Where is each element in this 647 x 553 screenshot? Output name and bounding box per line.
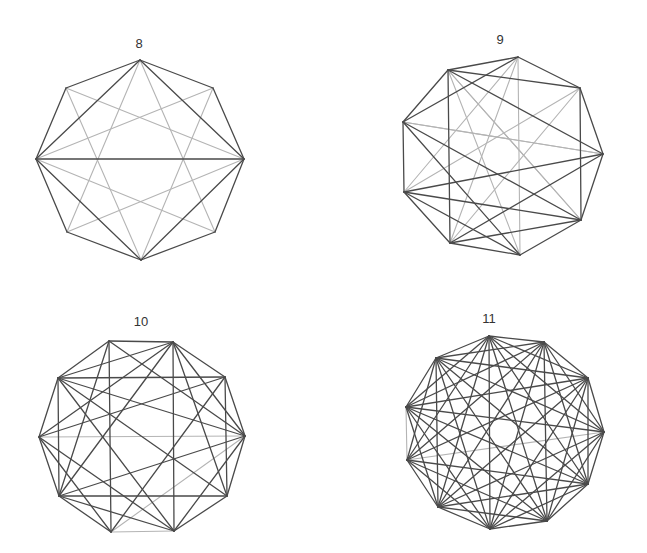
dark-edge [173, 342, 227, 496]
light-edge [518, 57, 520, 255]
figure-9-label: 9 [496, 32, 503, 47]
dark-edge [141, 232, 215, 260]
figure-10-label: 10 [134, 314, 148, 329]
dark-edge [173, 342, 245, 436]
dark-edge [36, 159, 141, 260]
light-edge [141, 88, 213, 260]
dark-edge [173, 342, 174, 531]
light-edge [36, 88, 213, 159]
dark-edge [109, 341, 173, 342]
dark-edge [403, 70, 448, 122]
dark-edge [215, 159, 244, 232]
dark-edge [141, 159, 244, 260]
figure-8: 8 [36, 36, 244, 260]
dark-edge [39, 342, 173, 437]
dark-edge [39, 377, 225, 437]
dark-edge [403, 57, 518, 122]
dark-edge [36, 60, 140, 159]
figure-11-label: 11 [482, 311, 496, 326]
dark-edge [436, 358, 588, 484]
dark-edge [174, 436, 245, 531]
dark-edge [58, 378, 245, 436]
dark-edge [490, 342, 544, 529]
figure-11: 11 [406, 311, 604, 529]
dark-edge [588, 432, 604, 484]
figure-10: 10 [39, 314, 245, 532]
light-edge [448, 70, 581, 220]
dark-edge [227, 436, 245, 496]
dark-edge [140, 60, 244, 159]
figure-10-edges [39, 341, 245, 532]
figure-8-label: 8 [135, 36, 142, 51]
figure-9-edges [403, 57, 603, 255]
dark-edge [404, 192, 450, 243]
dark-edge [66, 60, 140, 88]
dark-edge [59, 496, 174, 531]
dark-edge [58, 378, 59, 496]
figure-9: 9 [403, 32, 603, 255]
dark-edge [225, 377, 245, 436]
dark-edge [39, 437, 111, 532]
light-edge [111, 531, 174, 532]
dark-edge [67, 232, 141, 260]
dark-edge [581, 154, 603, 220]
dark-edge [407, 342, 544, 460]
light-edge [450, 57, 518, 243]
polygon-diagrams: 8 9 10 11 [0, 0, 647, 553]
dark-edge [588, 378, 604, 432]
dark-edge [174, 496, 227, 531]
dark-edge [39, 378, 58, 437]
dark-edge [59, 496, 111, 532]
light-edge [404, 88, 580, 192]
figure-8-edges [36, 60, 244, 260]
dark-edge [403, 122, 404, 192]
dark-edge [58, 342, 173, 378]
dark-edge [580, 88, 581, 220]
dark-edge [173, 342, 225, 377]
light-edge [406, 407, 407, 460]
dark-edge [404, 154, 603, 192]
dark-edge [406, 407, 547, 521]
dark-edge [39, 437, 59, 496]
light-edge [450, 88, 580, 243]
dark-edge [58, 341, 109, 378]
dark-edge [544, 342, 547, 521]
figure-11-edges [406, 336, 604, 529]
